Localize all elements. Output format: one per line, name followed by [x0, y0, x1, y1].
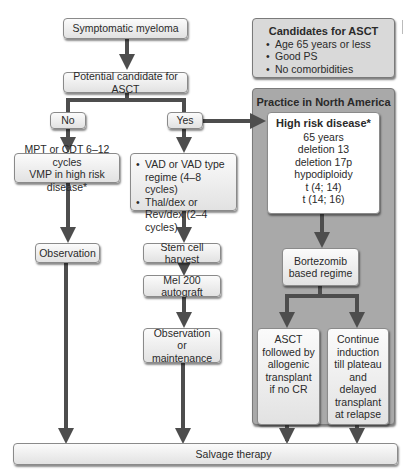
- bortezomib-regime-node: Bortezomib based regime: [282, 248, 359, 286]
- risk-factor: hypodiploidy: [294, 168, 352, 181]
- induction-option: Thal/dex or Rev/dex (2–4 cycles): [135, 196, 232, 234]
- risk-factor: deletion 13: [298, 143, 349, 156]
- page-edge-mark: [402, 20, 408, 34]
- symptomatic-myeloma-node: Symptomatic myeloma: [63, 18, 188, 39]
- asct-allogenic-node: ASCT followed by allogenic transplant if…: [257, 328, 320, 425]
- continue-induction-node: Continue induction till plateau and dela…: [327, 328, 389, 425]
- induction-options: VAD or VAD type regime (4–8 cycles) Thal…: [135, 158, 232, 233]
- risk-factor: t (4; 14): [305, 181, 341, 194]
- no-branch-label: No: [50, 112, 86, 129]
- high-risk-title: High risk disease*: [276, 117, 371, 130]
- vmp-line: VMP in high risk disease*: [19, 168, 115, 193]
- salvage-therapy-node: Salvage therapy: [13, 443, 398, 465]
- potential-candidate-node: Potential candidate for ASCT: [63, 72, 188, 93]
- yes-branch-label: Yes: [167, 112, 203, 129]
- risk-factor: t (14; 16): [302, 193, 344, 206]
- mel-200-autograft-node: Mel 200 autograft: [143, 275, 221, 297]
- observation-node: Observation: [35, 243, 100, 263]
- high-risk-disease-box: High risk disease* 65 years deletion 13 …: [267, 112, 380, 214]
- mpt-cdt-treatment-node: MPT or CDT 6–12 cycles VMP in high risk …: [14, 153, 120, 183]
- risk-factor: 65 years: [303, 131, 343, 144]
- observation-or-maintenance-node: Observation or maintenance: [143, 328, 221, 363]
- stem-cell-harvest-node: Stem cell harvest: [143, 243, 221, 263]
- induction-option: VAD or VAD type regime (4–8 cycles): [135, 158, 232, 196]
- mpt-line: MPT or CDT 6–12 cycles: [19, 143, 115, 168]
- risk-factor: deletion 17p: [295, 156, 352, 169]
- vad-thal-treatment-node: VAD or VAD type regime (4–8 cycles) Thal…: [130, 153, 237, 211]
